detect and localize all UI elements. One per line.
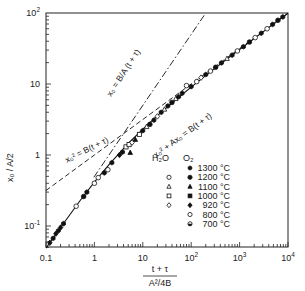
open-circle-marker [265, 26, 270, 31]
open-circle-marker [208, 69, 213, 74]
x-tick-label: 104 [281, 251, 295, 263]
y-tick-label: 10 [30, 79, 40, 89]
filled-hexagon-marker [166, 104, 170, 109]
open-circle-marker [74, 204, 79, 209]
x-tick-label: 10 [138, 253, 148, 263]
data-points [48, 15, 285, 246]
open-circle-marker [194, 79, 199, 84]
open-diamond-marker [167, 203, 171, 208]
oxidation-kinetics-chart: 0.111010210310410-1110102 x₀ = B/A (t + … [0, 0, 305, 291]
filled-hexagon-marker [241, 44, 245, 49]
open-circle-marker [96, 175, 101, 180]
y-tick-label: 10-1 [24, 219, 40, 231]
filled-hexagon-marker [85, 190, 89, 195]
x-axis-title-denominator: A²/4B [149, 278, 172, 288]
filled-hexagon-marker [177, 95, 181, 100]
open-square-marker [167, 194, 171, 198]
filled-hexagon-marker [141, 128, 145, 133]
x-axis-title-numerator: t + τ [152, 264, 169, 274]
x-tick-label: 103 [233, 251, 247, 263]
filled-circle-marker [213, 65, 218, 70]
open-triangle-marker [167, 184, 171, 188]
general-relation-curve [46, 13, 288, 248]
axis-ticks [46, 16, 288, 247]
model-curves [46, 13, 288, 248]
filled-hexagon-marker [188, 166, 192, 170]
legend-header-h2o: H₂O [152, 153, 169, 163]
x-tick-label: 1 [92, 253, 97, 263]
filled-hexagon-marker [121, 150, 125, 155]
y-axis-title: x₀ / A/2 [5, 153, 15, 182]
filled-hexagon-marker [189, 84, 193, 89]
open-circle-marker [184, 83, 189, 88]
open-circle-marker [106, 167, 111, 172]
filled-circle-marker [81, 194, 86, 199]
open-circle-marker [253, 35, 258, 40]
filled-diamond-marker [188, 203, 192, 208]
legend-temperature: 700 °C [202, 219, 230, 229]
linear-law-label: x₀ = B/A (t + τ) [104, 47, 142, 98]
filled-hexagon-marker [204, 72, 208, 77]
filled-hexagon-marker [110, 160, 114, 165]
filled-hexagon-marker [180, 91, 184, 96]
legend: H₂O O₂ 1300 °C1200 °C1100 °C1000 °C920 °… [152, 153, 231, 229]
filled-triangle-marker [128, 150, 133, 154]
parabolic-law-curve [46, 13, 288, 191]
y-tick-label: 102 [26, 6, 40, 18]
x-tick-label: 102 [184, 251, 198, 263]
plot-frame [46, 13, 288, 247]
filled-hexagon-marker [230, 53, 234, 58]
open-circle-marker [188, 212, 192, 216]
x-tick-label: 0.1 [40, 253, 53, 263]
filled-circle-marker [247, 40, 252, 45]
y-tick-label: 1 [35, 150, 40, 160]
filled-hexagon-marker [62, 221, 66, 226]
filled-hexagon-marker [259, 31, 263, 36]
legend-header-o2: O₂ [183, 153, 194, 163]
filled-circle-marker [276, 18, 281, 23]
plot-border [46, 13, 288, 247]
open-circle-marker [167, 175, 171, 179]
filled-square-marker [188, 194, 192, 198]
filled-circle-marker [148, 122, 153, 127]
filled-hexagon-marker [281, 15, 285, 20]
filled-hexagon-marker [51, 236, 55, 241]
open-circle-marker [92, 181, 97, 186]
filled-triangle-marker [188, 184, 192, 188]
filled-hexagon-marker [219, 61, 223, 66]
open-square-marker [137, 132, 141, 136]
legend-row: 700 °C [188, 219, 231, 229]
open-circle-marker [235, 49, 240, 54]
filled-circle-marker [188, 175, 192, 179]
filled-hexagon-marker [152, 118, 156, 123]
filled-hexagon-marker [271, 22, 275, 27]
